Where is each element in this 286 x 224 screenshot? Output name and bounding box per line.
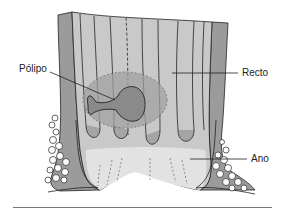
rectum-label: Recto [242, 68, 268, 78]
rectum-diagram: Pólipo Recto Ano [0, 0, 286, 224]
anus-label: Ano [251, 154, 269, 164]
rectum-illustration [0, 0, 286, 224]
polyp-label: Pólipo [19, 64, 47, 74]
divider-rule [13, 207, 272, 208]
anal-canal [86, 147, 206, 190]
